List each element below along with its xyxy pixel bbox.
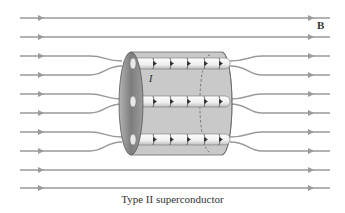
field-label: B	[317, 19, 324, 31]
current-label: I	[148, 73, 153, 84]
vortex-tube-bottom	[130, 134, 230, 145]
vortex-tube-top	[130, 58, 230, 69]
superconductor-diagram: I	[0, 0, 345, 213]
vortex-tube-middle	[130, 96, 230, 107]
superconductor-cylinder	[119, 52, 232, 155]
diagram-caption: Type II superconductor	[0, 193, 345, 205]
